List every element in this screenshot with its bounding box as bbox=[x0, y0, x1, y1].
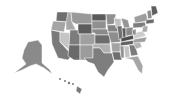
state-ks bbox=[95, 35, 110, 44]
state-mi bbox=[121, 18, 130, 28]
state-nd bbox=[92, 14, 106, 21]
state-fl bbox=[125, 56, 143, 74]
state-oh bbox=[126, 27, 133, 36]
state-ms bbox=[120, 46, 124, 58]
state-in bbox=[122, 28, 126, 38]
state-wy bbox=[78, 24, 92, 34]
island-hi-1 bbox=[59, 78, 61, 80]
state-wv bbox=[132, 29, 136, 35]
state-hi bbox=[76, 86, 82, 94]
state-mt bbox=[71, 12, 92, 24]
island-hi-2 bbox=[64, 80, 66, 82]
state-ma_ct_ri bbox=[146, 19, 154, 24]
island-hi-3 bbox=[68, 82, 70, 84]
state-sd bbox=[92, 21, 106, 29]
states-layer bbox=[14, 6, 158, 94]
state-me bbox=[151, 6, 158, 16]
state-nh_vt bbox=[147, 10, 152, 19]
us-choropleth-map bbox=[0, 0, 171, 101]
state-ak bbox=[14, 40, 52, 74]
state-al bbox=[124, 46, 130, 58]
state-ar bbox=[111, 43, 121, 52]
state-nj_de_md bbox=[142, 26, 148, 32]
islands-layer bbox=[59, 78, 74, 85]
state-co bbox=[80, 34, 95, 45]
island-hi-4 bbox=[72, 83, 74, 85]
